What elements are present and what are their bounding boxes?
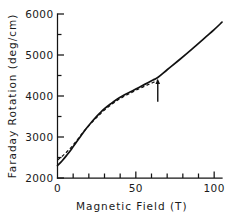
y-tick-label: 4000 [25,90,53,102]
y-axis-tick-labels: 20003000400050006000 [25,8,53,184]
data-series-group [58,22,223,166]
annotation-group [155,79,160,102]
x-axis-title: Magnetic Field (T) [76,200,188,212]
y-tick-label: 3000 [25,131,53,143]
y-tick-label: 5000 [25,49,53,61]
x-tick-label: 50 [129,182,143,194]
chart-canvas: 20003000400050006000 050100 Faraday Rota… [0,0,233,224]
plot-axes [58,14,223,178]
x-tick-label: 100 [204,182,225,194]
series-experiment-curve [58,22,223,166]
y-tick-label: 2000 [25,172,53,184]
transition-arrow-head [155,79,160,84]
y-tick-label: 6000 [25,8,53,20]
y-axis-ticks [58,14,65,178]
x-tick-label: 0 [54,182,61,194]
faraday-rotation-chart: 20003000400050006000 050100 Faraday Rota… [0,0,233,224]
y-axis-title: Faraday Rotation (deg/cm) [6,14,18,179]
x-axis-tick-labels: 050100 [54,182,225,194]
x-axis-ticks [73,172,214,179]
